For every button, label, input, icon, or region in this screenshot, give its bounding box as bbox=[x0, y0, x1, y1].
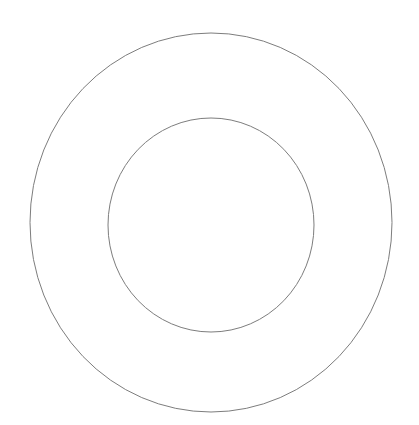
concentric-circles-svg bbox=[0, 0, 419, 425]
background-rect bbox=[0, 0, 419, 425]
figure-canvas bbox=[0, 0, 419, 425]
